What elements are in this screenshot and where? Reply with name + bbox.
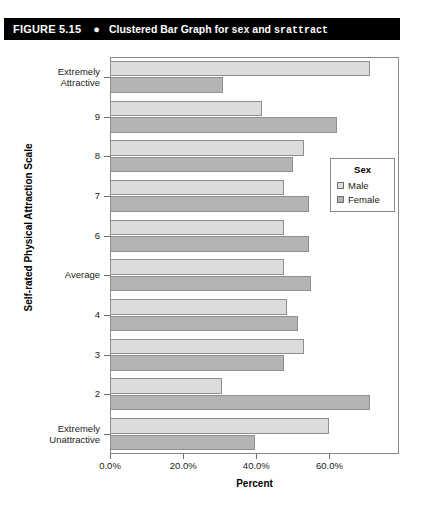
y-axis-label: 6	[95, 230, 100, 241]
bar-chart: Self-rated Physical Attraction Scale Per…	[0, 0, 432, 515]
bar-male	[110, 101, 262, 117]
bar-female	[110, 77, 223, 93]
y-axis-label: 4	[95, 309, 100, 320]
x-axis-label: 20.0%	[156, 460, 210, 471]
x-axis-title: Percent	[110, 478, 399, 489]
y-axis-label: Average	[65, 269, 100, 280]
x-axis-tick	[183, 454, 184, 459]
legend-item-female: Female	[337, 194, 388, 205]
bar-female	[110, 355, 284, 371]
bar-male	[110, 61, 370, 77]
bar-female	[110, 157, 293, 173]
legend-item-male: Male	[337, 180, 388, 191]
bar-male	[110, 339, 304, 355]
bar-female	[110, 236, 309, 252]
y-axis-label: 3	[95, 349, 100, 360]
x-axis-tick	[256, 454, 257, 459]
bar-female	[110, 395, 370, 411]
y-axis-label: ExtremelyAttractive	[58, 66, 100, 88]
bar-female	[110, 435, 255, 451]
bar-male	[110, 180, 284, 196]
y-axis-label: 8	[95, 150, 100, 161]
x-axis-tick	[110, 454, 111, 459]
legend-title: Sex	[337, 164, 388, 175]
bar-male	[110, 299, 287, 315]
bar-male	[110, 418, 329, 434]
legend-label-male: Male	[348, 180, 369, 191]
y-axis-label: ExtremelyUnattractive	[49, 423, 100, 445]
y-axis-label: 7	[95, 190, 100, 201]
y-axis-label: 9	[95, 111, 100, 122]
y-axis-label: 2	[95, 388, 100, 399]
bar-female	[110, 117, 337, 133]
x-axis-tick	[329, 454, 330, 459]
legend: Sex Male Female	[330, 158, 395, 212]
bar-male	[110, 378, 222, 394]
x-axis-label: 40.0%	[229, 460, 283, 471]
y-axis-title: Self-rated Physical Attraction Scale	[23, 108, 34, 348]
bar-female	[110, 196, 309, 212]
bar-male	[110, 259, 284, 275]
bar-male	[110, 220, 284, 236]
x-axis-label: 0.0%	[83, 460, 137, 471]
bar-female	[110, 316, 298, 332]
x-axis-label: 60.0%	[302, 460, 356, 471]
legend-swatch-male-icon	[337, 182, 344, 189]
bar-male	[110, 140, 304, 156]
legend-swatch-female-icon	[337, 196, 344, 203]
legend-label-female: Female	[348, 194, 380, 205]
bar-female	[110, 276, 311, 292]
